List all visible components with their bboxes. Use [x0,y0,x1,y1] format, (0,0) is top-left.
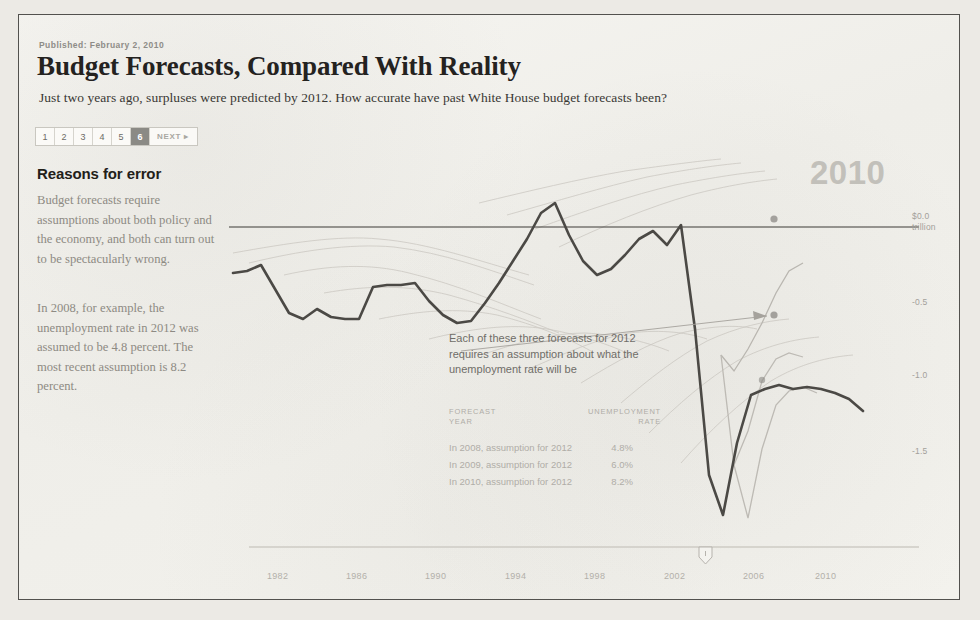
y-axis-label-minus-one-half: -1.5 [912,446,927,457]
pager-page-5[interactable]: 5 [112,128,131,145]
article-page-frame: Published: February 2, 2010 Budget Forec… [18,14,960,600]
x-tick-1982: 1982 [267,571,288,581]
x-tick-1994: 1994 [505,571,526,581]
table-cell-label: In 2009, assumption for 2012 [449,456,581,473]
sidebar-paragraph-2: In 2008, for example, the unemployment r… [37,299,220,397]
table-cell-value: 8.2% [581,473,633,490]
x-tick-1986: 1986 [346,571,367,581]
pager-page-4[interactable]: 4 [93,128,112,145]
x-tick-1998: 1998 [584,571,605,581]
page-title: Budget Forecasts, Compared With Reality [37,51,521,82]
page-content: Published: February 2, 2010 Budget Forec… [19,15,959,599]
pager-page-2[interactable]: 2 [55,128,74,145]
x-tick-2006: 2006 [743,571,764,581]
chart-annotation-text: Each of these three forecasts for 2012 r… [449,331,664,378]
timeline-slider-handle[interactable] [698,546,713,565]
annotation-arrowhead [753,311,767,320]
table-header-forecast-year: FORECASTYEAR [449,407,581,426]
table-row: In 2009, assumption for 2012 6.0% [449,456,664,473]
chart-year-watermark: 2010 [810,154,885,192]
y-axis-label-minus-one: -1.0 [912,370,927,381]
pagination[interactable]: 1 2 3 4 5 6 NEXT ▸ [35,127,198,146]
table-header-unemployment-rate: UNEMPLOYMENTRATE [581,407,661,426]
x-axis-tick-labels: 1982 1986 1990 1994 1998 2002 2006 2010 … [19,571,960,587]
table-cell-value: 6.0% [581,456,633,473]
x-tick-2010: 2010 [815,571,836,581]
forecast-assumptions-table: FORECASTYEAR UNEMPLOYMENTRATE In 2008, a… [449,407,664,490]
table-cell-label: In 2008, assumption for 2012 [449,439,581,456]
pager-page-3[interactable]: 3 [74,128,93,145]
y-axis-label-zero: $0.0trillion [912,211,936,232]
page-subhead: Just two years ago, surpluses were predi… [39,90,667,106]
sidebar-paragraph-1: Budget forecasts require assumptions abo… [37,191,220,269]
forecast-endpoint-marker-2008[interactable] [770,215,777,222]
table-header-row: FORECASTYEAR UNEMPLOYMENTRATE [449,407,664,426]
table-cell-value: 4.8% [581,439,633,456]
pager-next-button[interactable]: NEXT ▸ [150,128,197,145]
forecast-endpoint-marker-2010[interactable] [759,377,765,383]
table-row: In 2008, assumption for 2012 4.8% [449,439,664,456]
sidebar-heading: Reasons for error [37,165,161,182]
published-date: Published: February 2, 2010 [39,40,164,50]
pager-page-6-active[interactable]: 6 [131,128,150,145]
x-tick-2002: 2002 [664,571,685,581]
table-cell-label: In 2010, assumption for 2012 [449,473,581,490]
x-tick-1990: 1990 [425,571,446,581]
table-row: In 2010, assumption for 2012 8.2% [449,473,664,490]
y-axis-label-minus-half: -0.5 [912,297,927,308]
pager-page-1[interactable]: 1 [36,128,55,145]
forecast-endpoint-marker-2009[interactable] [770,311,777,318]
